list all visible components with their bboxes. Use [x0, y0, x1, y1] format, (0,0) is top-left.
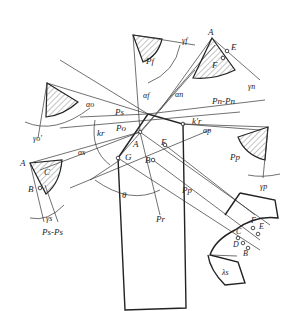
label-gamma-p: γp	[260, 182, 267, 191]
label-b-center: B	[145, 155, 151, 165]
label-a-left: A	[19, 158, 26, 168]
label-pp-right: Pp	[229, 152, 240, 162]
tool-shank	[118, 114, 186, 310]
label-pr: Pr	[155, 214, 165, 224]
label-gamma-s: γs	[46, 214, 52, 223]
diagram-canvas: Pf γf αf A E F γn αn Pn-Pn αo γo' Ps Po …	[0, 0, 299, 311]
label-alpha-f: αf	[143, 91, 151, 100]
label-f-lr: F	[250, 216, 256, 225]
label-f-top: F	[211, 60, 218, 70]
section-pf: Pf γf αf	[133, 35, 195, 100]
label-g: G	[125, 152, 132, 162]
section-pn: A E F γn αn Pn-Pn	[160, 27, 260, 110]
label-theta: θ	[122, 190, 127, 200]
tool-angle-diagram: Pf γf αf A E F γn αn Pn-Pn αo γo' Ps Po …	[0, 0, 299, 311]
construction-lines	[40, 35, 270, 250]
label-b-lr: B	[243, 249, 248, 258]
label-alpha-p: αp	[203, 126, 211, 135]
label-ps-ps: Ps-Ps	[41, 227, 63, 237]
label-gamma-o-prime: γo'	[33, 134, 42, 143]
label-pf: Pf	[145, 56, 155, 66]
section-left: αo γo'	[25, 83, 148, 143]
label-po: Po	[115, 123, 126, 133]
label-gamma-n: γn	[248, 82, 255, 91]
label-alpha-n: αn	[175, 90, 183, 99]
label-c-lr: C	[236, 227, 242, 236]
section-pp: Pp αp γp	[183, 124, 280, 191]
label-d-lr: D	[232, 240, 239, 249]
label-ps: Ps	[114, 107, 124, 117]
label-b-left: B	[28, 184, 34, 194]
label-lambda-s: λs	[221, 268, 229, 277]
label-e-top: E	[230, 42, 237, 52]
label-pn-pn: Pn-Pn	[211, 96, 235, 106]
label-e-lr: E	[258, 222, 264, 231]
label-alpha-o: αo	[86, 100, 94, 109]
label-alpha-s: αs	[78, 148, 85, 157]
label-kr: kr	[97, 128, 105, 138]
label-a-center: A	[132, 139, 139, 149]
label-a-top: A	[207, 27, 214, 37]
section-ps: A B C αs γs Ps-Ps	[19, 132, 140, 237]
label-pp-center: Pp	[181, 185, 192, 195]
label-c-left: C	[44, 167, 51, 177]
